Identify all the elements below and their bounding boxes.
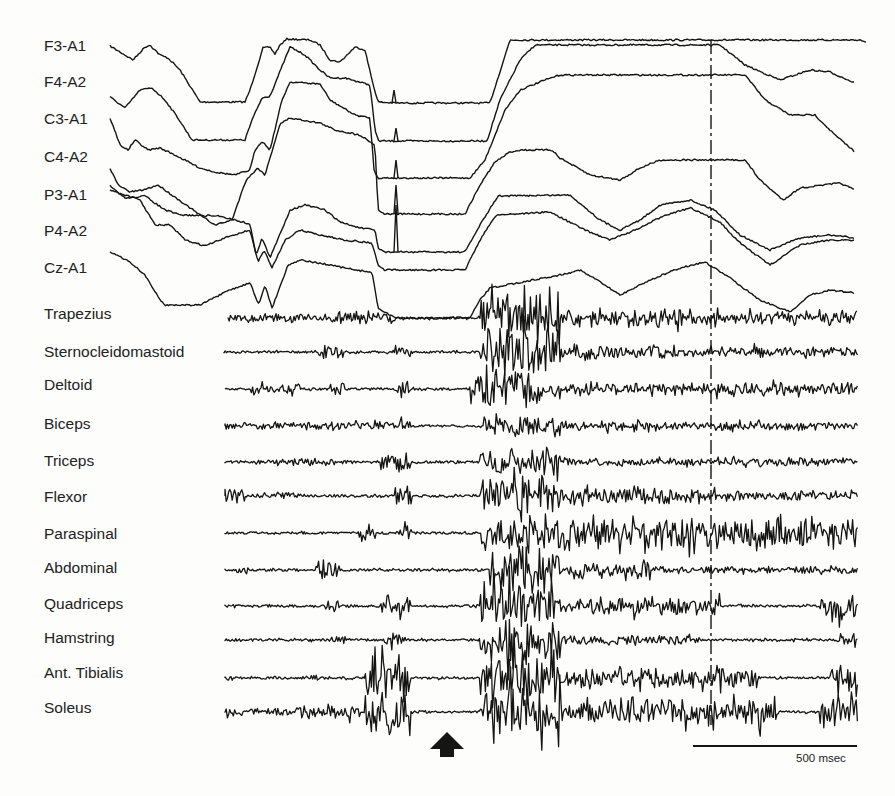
eeg-emg-polygraph-figure: F3-A1 F4-A2 C3-A1 C4-A2 P3-A1 P4-A2 Cz-A… — [0, 0, 895, 796]
channel-label-deltoid: Deltoid — [44, 376, 92, 394]
channel-label-sternocleidomastoid: Sternocleidomastoid — [44, 343, 184, 361]
emg-trace-trapezius — [228, 284, 857, 344]
channel-label-flexor: Flexor — [44, 488, 87, 506]
eeg-trace-p3-a1 — [110, 185, 854, 257]
emg-trace-flexor — [225, 467, 857, 522]
eeg-trace-f3-a1 — [110, 38, 866, 104]
channel-label-soleus: Soleus — [44, 699, 91, 717]
eeg-artifact-spike — [394, 128, 398, 141]
emg-trace-deltoid — [225, 365, 857, 408]
channel-label-f3-a1: F3-A1 — [44, 37, 86, 55]
eeg-trace-c4-a2 — [110, 118, 854, 225]
emg-trace-paraspinal — [225, 514, 857, 557]
channel-label-trapezius: Trapezius — [44, 305, 111, 323]
eeg-trace-c3-a1 — [110, 74, 854, 179]
eeg-artifact-spike — [392, 90, 396, 103]
channel-label-f4-a2: F4-A2 — [44, 73, 86, 91]
channel-label-ant-tibialis: Ant. Tibialis — [44, 664, 123, 682]
channel-label-c3-a1: C3-A1 — [44, 110, 88, 128]
eeg-trace-f4-a2 — [110, 44, 854, 142]
scale-bar-label: 500 msec — [796, 752, 846, 764]
trace-plot — [0, 0, 895, 796]
channel-label-triceps: Triceps — [44, 452, 94, 470]
channel-label-p4-a2: P4-A2 — [44, 222, 87, 240]
channel-label-p3-a1: P3-A1 — [44, 186, 87, 204]
event-arrow-up-icon — [430, 732, 464, 757]
channel-label-biceps: Biceps — [44, 415, 91, 433]
channel-label-paraspinal: Paraspinal — [44, 525, 117, 543]
channel-label-abdominal: Abdominal — [44, 559, 117, 577]
eeg-trace-p4-a2 — [110, 190, 854, 271]
emg-trace-sternocleidomastoid — [224, 316, 858, 376]
emg-trace-abdominal — [225, 546, 857, 593]
channel-label-c4-a2: C4-A2 — [44, 148, 88, 166]
channel-label-cz-a1: Cz-A1 — [44, 259, 87, 277]
emg-trace-ant-tibialis — [225, 636, 857, 708]
emg-trace-quadriceps — [225, 567, 857, 628]
channel-label-hamstring: Hamstring — [44, 629, 115, 647]
eeg-artifact-spike — [394, 160, 398, 178]
emg-trace-biceps — [225, 414, 857, 437]
channel-label-quadriceps: Quadriceps — [44, 595, 123, 613]
